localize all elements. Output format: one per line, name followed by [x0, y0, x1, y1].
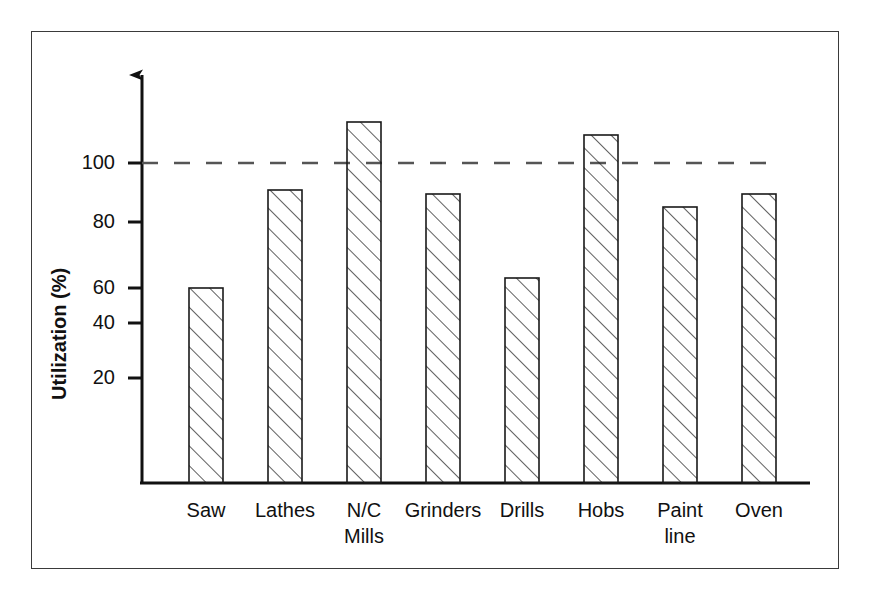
axes-group	[140, 75, 810, 483]
bar-oven	[742, 194, 776, 483]
bar-saw	[189, 288, 223, 483]
y-tick-label-80: 80	[55, 210, 115, 233]
bars-group	[189, 122, 776, 483]
y-axis-ticks	[128, 163, 142, 378]
bar-drills	[505, 278, 539, 483]
y-tick-label-100: 100	[55, 151, 115, 174]
bar-lathes	[268, 190, 302, 483]
y-axis-label: Utilization (%)	[48, 268, 71, 400]
x-category-label-oven: Oven	[704, 497, 814, 523]
chart-figure: 20 40 60 80 100 Utilization (%) Saw Lath…	[0, 0, 870, 597]
bar-grinders	[426, 194, 460, 483]
bar-nc-mills	[347, 122, 381, 483]
bar-paint-line	[663, 207, 697, 483]
bar-hobs	[584, 135, 618, 483]
